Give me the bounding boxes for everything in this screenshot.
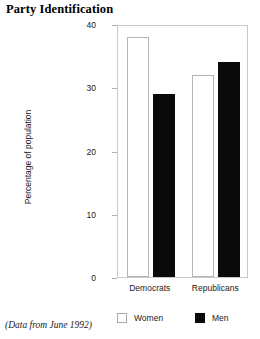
plot-area xyxy=(117,25,248,278)
y-tick-label: 0 xyxy=(91,273,96,283)
y-axis-title: Percentage of population xyxy=(23,67,33,247)
black-square-icon xyxy=(195,313,205,323)
chart-figure: Party Identification Percentage of popul… xyxy=(0,0,260,339)
bar-democrats-women xyxy=(127,37,149,277)
bar-republicans-women xyxy=(192,75,214,277)
y-tick-label: 30 xyxy=(87,83,96,93)
legend-label: Men xyxy=(212,313,229,323)
legend-label: Women xyxy=(134,313,163,323)
x-tick-label: Republicans xyxy=(192,283,239,293)
white-square-icon xyxy=(117,313,127,323)
bars-layer xyxy=(118,26,247,277)
legend-entry-women: Women xyxy=(117,311,163,325)
chart-legend: WomenMen xyxy=(117,311,260,327)
bar-democrats-men xyxy=(153,94,175,277)
footnote: (Data from June 1992) xyxy=(5,320,92,330)
y-tick-label: 10 xyxy=(87,210,96,220)
legend-entry-men: Men xyxy=(195,311,229,325)
bar-republicans-men xyxy=(218,62,240,277)
x-tick-label: Democrats xyxy=(129,283,170,293)
y-tick-mark xyxy=(112,278,117,279)
y-tick-label: 20 xyxy=(87,147,96,157)
y-axis: Percentage of population 010203040 xyxy=(0,0,117,339)
y-tick-label: 40 xyxy=(87,20,96,30)
